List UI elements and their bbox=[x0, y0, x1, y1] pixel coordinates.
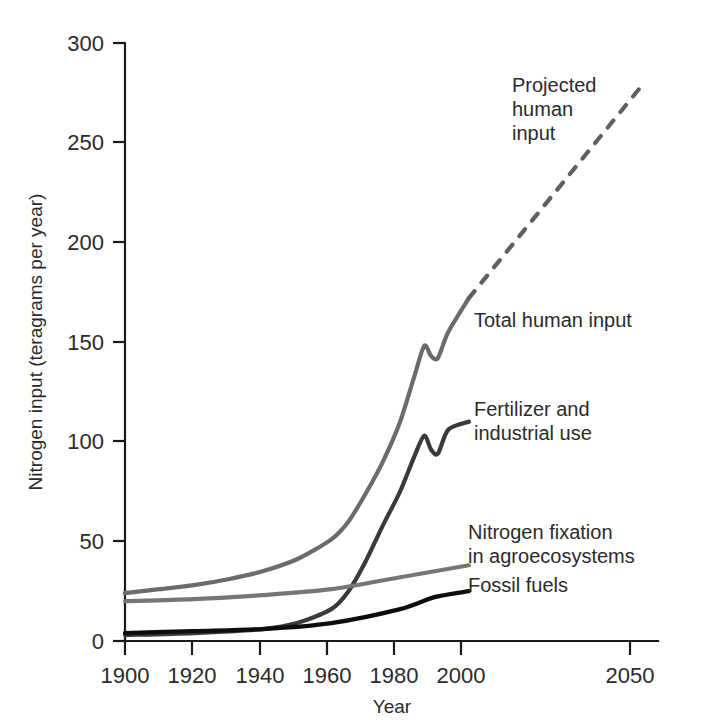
series-path-nitrogen-fixation-in-agroecosystems bbox=[125, 565, 469, 601]
y-axis-ticks: 300 250 200 150 100 50 0 bbox=[67, 31, 125, 654]
annotation-projected-human-input-line-0: Projected bbox=[512, 74, 597, 96]
series-path-fossil-fuels bbox=[125, 591, 469, 633]
annotation-projected-human-input-line-1: human bbox=[512, 98, 573, 120]
y-tick-label-0: 0 bbox=[92, 629, 104, 654]
annotation-projected-human-input-line-2: input bbox=[512, 122, 556, 144]
y-tick-label-150: 150 bbox=[67, 330, 104, 355]
annotation-fertilizer-and-industrial-use-line-1: industrial use bbox=[474, 422, 592, 444]
annotation-fertilizer-and-industrial-use-line-0: Fertilizer and bbox=[474, 398, 590, 420]
y-tick-label-250: 250 bbox=[67, 130, 104, 155]
y-axis-title: Nitrogen input (teragrams per year) bbox=[25, 194, 46, 491]
x-axis-ticks: 1900 1920 1940 1960 1980 2000 2050 bbox=[101, 641, 655, 688]
x-tick-label-1980: 1980 bbox=[370, 663, 419, 688]
x-tick-label-1900: 1900 bbox=[101, 663, 150, 688]
x-tick-label-2050: 2050 bbox=[606, 663, 655, 688]
annotation-nitrogen-fixation-line-1: in agroecosystems bbox=[468, 545, 635, 567]
annotation-nitrogen-fixation-in-agroecosystems: Nitrogen fixation in agroecosystems bbox=[468, 521, 635, 567]
annotation-fossil-fuels-line-0: Fossil fuels bbox=[468, 574, 568, 596]
x-tick-label-1960: 1960 bbox=[303, 663, 352, 688]
y-tick-label-100: 100 bbox=[67, 429, 104, 454]
x-tick-label-1940: 1940 bbox=[236, 663, 285, 688]
x-tick-label-2000: 2000 bbox=[437, 663, 486, 688]
annotation-nitrogen-fixation-line-0: Nitrogen fixation bbox=[468, 521, 613, 543]
y-tick-label-300: 300 bbox=[67, 31, 104, 56]
chart-figure: 300 250 200 150 100 50 0 1900 1920 1940 … bbox=[0, 0, 703, 720]
annotation-total-human-input: Total human input bbox=[474, 309, 632, 331]
x-tick-label-1920: 1920 bbox=[168, 663, 217, 688]
annotation-fertilizer-and-industrial-use: Fertilizer and industrial use bbox=[474, 398, 592, 444]
y-tick-label-50: 50 bbox=[80, 529, 104, 554]
x-axis-title: Year bbox=[373, 696, 412, 717]
series-annotations: Projected human input Total human input … bbox=[468, 74, 635, 596]
line-chart-canvas: 300 250 200 150 100 50 0 1900 1920 1940 … bbox=[0, 0, 703, 720]
annotation-fossil-fuels: Fossil fuels bbox=[468, 574, 568, 596]
annotation-total-human-input-line-0: Total human input bbox=[474, 309, 632, 331]
y-tick-label-200: 200 bbox=[67, 230, 104, 255]
annotation-projected-human-input: Projected human input bbox=[512, 74, 597, 144]
